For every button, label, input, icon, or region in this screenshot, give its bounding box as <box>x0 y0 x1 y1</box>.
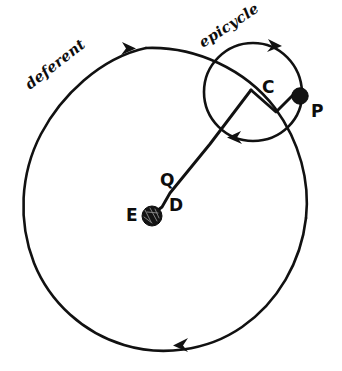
label-E: E <box>126 205 138 225</box>
deferent-label-group: deferent <box>21 35 88 92</box>
deferent-label: deferent <box>21 35 88 92</box>
label-P: P <box>311 101 323 121</box>
label-C: C <box>262 77 274 97</box>
planet-marker-group <box>292 88 308 104</box>
earth-marker-group <box>142 206 162 226</box>
label-D: D <box>169 195 183 215</box>
epicycle-diagram: deferent epicycle C P Q D E <box>0 0 342 371</box>
figure-svg: deferent epicycle C P Q D E <box>0 0 342 371</box>
epicycle-arrowhead-bottom <box>227 131 242 144</box>
label-Q: Q <box>160 170 174 190</box>
planet-dot <box>292 88 308 104</box>
